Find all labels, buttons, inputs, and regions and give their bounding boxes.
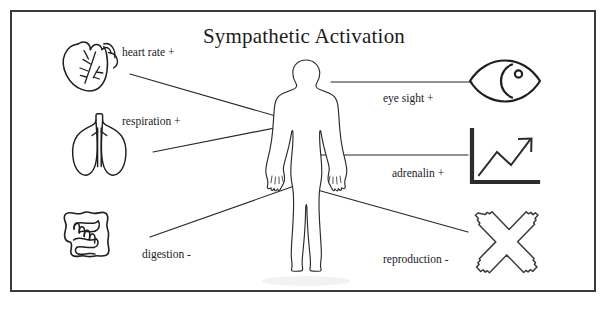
lungs-icon: [73, 114, 126, 175]
eye-icon: [470, 61, 540, 102]
label-reproduction: reproduction -: [383, 253, 448, 265]
connector-digestion: [150, 184, 300, 237]
label-respiration: respiration +: [122, 115, 181, 127]
intestines-icon: [64, 212, 109, 257]
label-digestion: digestion -: [142, 248, 191, 260]
label-heart-rate: heart rate +: [122, 46, 174, 58]
label-eye-sight: eye sight +: [383, 92, 434, 104]
heart-icon: [63, 42, 117, 91]
label-adrenalin: adrenalin +: [392, 167, 444, 179]
human-body-outline: [262, 60, 350, 286]
connector-reproduction: [303, 186, 468, 232]
sympathetic-activation-figure: Sympathetic Activation heart rate + resp…: [0, 0, 608, 309]
cross-x-icon: [475, 212, 538, 273]
page-title: Sympathetic Activation: [0, 24, 608, 49]
rising-chart-icon: [472, 130, 538, 182]
